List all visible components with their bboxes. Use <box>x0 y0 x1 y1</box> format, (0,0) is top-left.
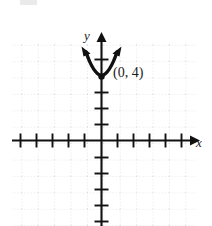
vertex-point-label: (0, 4) <box>113 66 143 80</box>
coordinate-plane <box>0 0 212 226</box>
graph-figure: y x (0, 4) <box>0 0 212 226</box>
y-axis-label: y <box>84 29 90 42</box>
y-axis-arrowhead <box>97 32 107 42</box>
vertex-point <box>98 73 104 79</box>
grid-background <box>12 42 196 226</box>
x-axis-label: x <box>196 136 202 149</box>
